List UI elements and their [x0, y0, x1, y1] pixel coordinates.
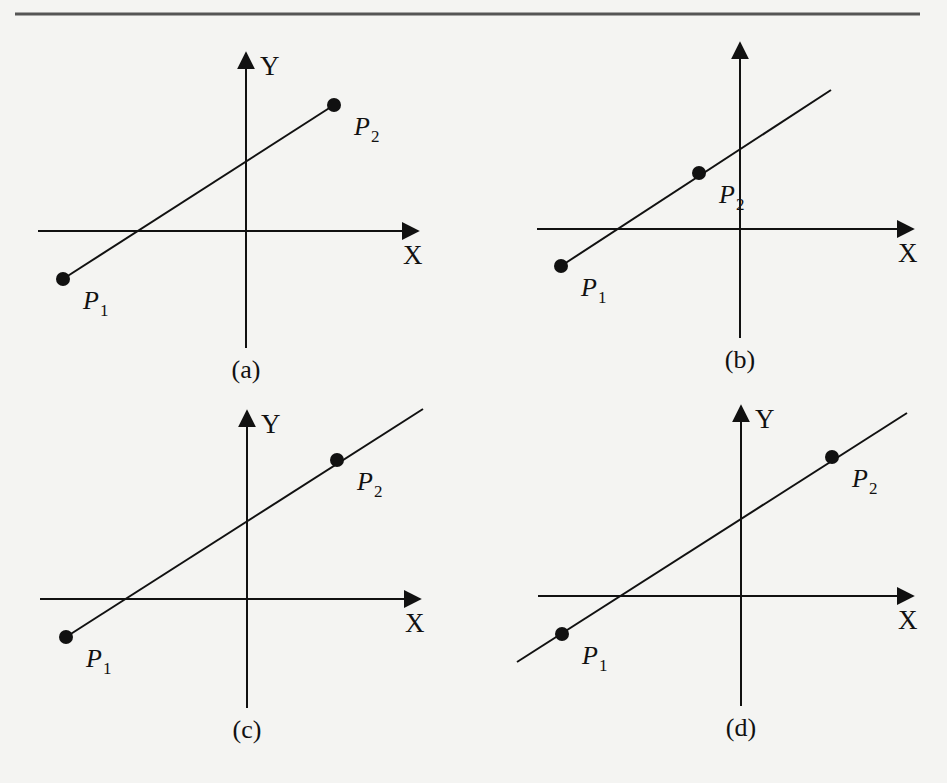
panel-caption: (a) [232, 355, 261, 384]
x-axis-label: X [403, 240, 423, 270]
point-p1-label: P1 [85, 644, 111, 678]
panel-caption: (d) [726, 713, 756, 742]
panel-caption: (b) [725, 345, 755, 374]
point-p2-marker [327, 98, 341, 112]
line-line [517, 413, 907, 662]
y-axis-label: Y [261, 409, 281, 439]
point-p2-marker [825, 450, 839, 464]
point-p1-label: P1 [82, 286, 108, 320]
point-p2-marker [692, 166, 706, 180]
line-ray [66, 409, 423, 637]
figure-canvas: XYP1P2(a)XP1P2(b)XYP1P2(c)XYP1P2(d) [0, 0, 947, 783]
panel-caption: (c) [233, 715, 262, 744]
point-p1-label: P1 [580, 273, 606, 307]
panel-b: XP1P2(b) [537, 43, 918, 374]
x-axis-label: X [898, 605, 918, 635]
panel-d: XYP1P2(d) [517, 404, 918, 742]
line-segment [63, 105, 334, 279]
point-p1-label: P1 [581, 641, 607, 675]
point-p2-marker [330, 453, 344, 467]
point-p2-label: P2 [356, 467, 382, 501]
panel-a: XYP1P2(a) [38, 51, 423, 384]
point-p2-label: P2 [851, 464, 877, 498]
point-p1-marker [56, 272, 70, 286]
point-p1-marker [555, 627, 569, 641]
point-p1-marker [59, 630, 73, 644]
x-axis-label: X [405, 608, 425, 638]
x-axis-label: X [898, 238, 918, 268]
panel-c: XYP1P2(c) [40, 409, 425, 744]
point-p1-marker [554, 259, 568, 273]
y-axis-label: Y [260, 51, 280, 81]
y-axis-label: Y [755, 404, 775, 434]
point-p2-label: P2 [353, 112, 379, 146]
